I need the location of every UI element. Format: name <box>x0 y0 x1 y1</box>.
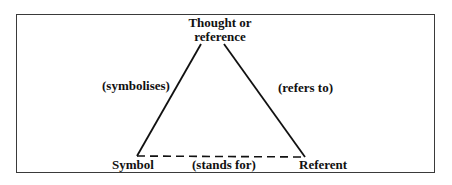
semiotic-triangle-diagram: Thought or reference (symbolises) (refer… <box>0 0 452 185</box>
symbol-node: Symbol <box>112 158 154 172</box>
refers-to-edge <box>224 44 305 157</box>
symbolises-edge <box>137 44 201 156</box>
thought-or-reference-node: Thought or reference <box>170 16 270 44</box>
symbolises-label: (symbolises) <box>102 79 170 93</box>
stands-for-label: (stands for) <box>192 158 256 172</box>
apex-label-line1: Thought or <box>170 16 270 30</box>
referent-node: Referent <box>299 158 347 172</box>
apex-label-line2: reference <box>170 30 270 44</box>
refers-to-label: (refers to) <box>278 81 333 95</box>
